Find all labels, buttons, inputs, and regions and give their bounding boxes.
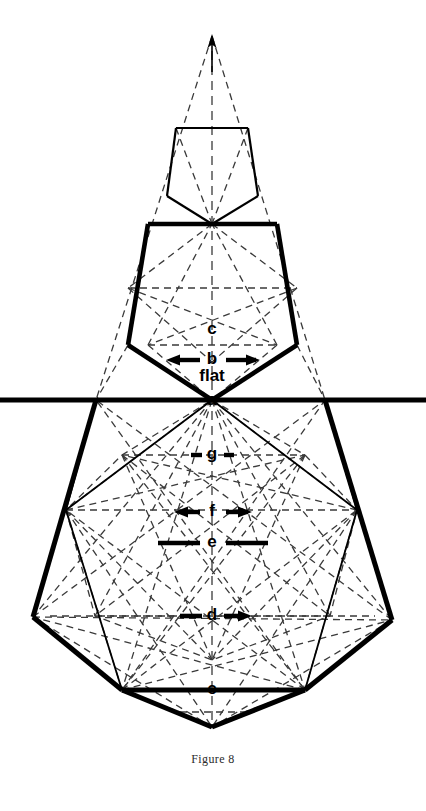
dim-b-arrowhead-right [246, 355, 260, 366]
dash-mid-8 [212, 224, 277, 345]
label-e: e [207, 532, 216, 551]
dash-lv-3 [33, 617, 212, 727]
label-c-bottom: c [207, 679, 216, 698]
dash-mid-flare-l [96, 345, 128, 400]
label-d: d [207, 605, 217, 624]
dash-lv-1 [33, 400, 325, 617]
label-f: f [209, 501, 215, 520]
top-pent-lr [212, 196, 258, 224]
dash-top-pent-1 [176, 128, 212, 224]
dash-cl-2 [122, 400, 325, 690]
label-flat: flat [199, 366, 225, 385]
dash-is-8 [122, 455, 212, 660]
dim-b-arrowhead-left [166, 355, 180, 366]
dash-top-pent-2 [212, 128, 248, 224]
dash-mid-6 [148, 288, 297, 345]
geometric-diagram: b flat a c g f e [0, 0, 426, 811]
solid-5 [66, 510, 122, 690]
mid-pent-right [277, 224, 297, 345]
figure-caption: Figure 8 [0, 752, 426, 767]
dash-cr-2 [96, 400, 305, 690]
dash-mid-5 [128, 288, 277, 345]
mid-pent-left [128, 224, 148, 345]
label-a: a [207, 390, 217, 409]
label-c-mid: c [207, 319, 216, 338]
dash-mid-flare-r [297, 345, 325, 400]
dash-is-6 [95, 400, 212, 616]
bot-poly-bbr [212, 690, 305, 727]
dash-mid-7 [148, 224, 212, 345]
figure-container: b flat a c g f e [0, 0, 426, 811]
bot-poly-bl [33, 617, 122, 690]
mid-pent-br [212, 345, 297, 400]
top-pent-ul [167, 128, 176, 196]
dash-rv-2 [212, 620, 392, 727]
label-g: g [207, 444, 217, 463]
top-pent-ur [248, 128, 258, 196]
bot-poly-bbl [122, 690, 212, 727]
top-pent-ll [167, 196, 212, 224]
axis-arrow-up [208, 34, 217, 72]
bot-poly-br [305, 620, 392, 690]
